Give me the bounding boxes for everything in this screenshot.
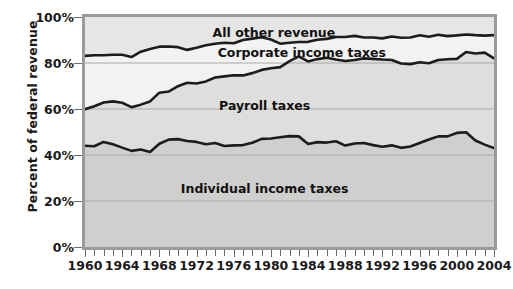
x-axis-minor-tick	[401, 250, 402, 256]
x-axis-major-tick	[234, 250, 235, 257]
y-axis-tick-mark	[74, 201, 82, 202]
x-axis-tick-label: 1992	[365, 258, 400, 273]
x-axis-minor-tick	[187, 250, 188, 256]
x-axis-major-tick	[308, 250, 309, 257]
x-axis-minor-tick	[466, 250, 467, 256]
x-axis-minor-tick	[355, 250, 356, 256]
x-axis-minor-tick	[485, 250, 486, 256]
y-axis-tick-label: 60%	[30, 102, 74, 117]
x-axis-minor-tick	[429, 250, 430, 256]
x-axis-minor-tick	[169, 250, 170, 256]
x-axis-tick-label: 1984	[291, 258, 326, 273]
x-axis-major-tick	[382, 250, 383, 257]
x-axis-major-tick	[85, 250, 86, 257]
x-axis-minor-tick	[206, 250, 207, 256]
x-axis-tick-label: 1980	[254, 258, 289, 273]
chart-container: Percent of federal revenue 0%20%40%60%80…	[0, 0, 513, 289]
x-axis-tick-label: 1960	[68, 258, 103, 273]
y-axis-tick-mark	[74, 155, 82, 156]
x-axis-minor-tick	[262, 250, 263, 256]
x-axis-tick-label: 1972	[179, 258, 214, 273]
x-axis-minor-tick	[299, 250, 300, 256]
x-axis-minor-tick	[243, 250, 244, 256]
x-axis-minor-tick	[290, 250, 291, 256]
x-axis-tick-label: 1996	[402, 258, 437, 273]
y-axis-tick-label: 0%	[30, 240, 74, 255]
x-axis-minor-tick	[131, 250, 132, 256]
y-axis-tick-label: 20%	[30, 194, 74, 209]
y-axis-tick-label: 40%	[30, 148, 74, 163]
plot-area: All other revenueCorporate income taxesP…	[82, 14, 497, 250]
x-axis-minor-tick	[327, 250, 328, 256]
x-axis-minor-tick	[317, 250, 318, 256]
x-axis-minor-tick	[336, 250, 337, 256]
y-axis-tick-label: 80%	[30, 56, 74, 71]
x-axis-minor-tick	[141, 250, 142, 256]
x-axis-minor-tick	[373, 250, 374, 256]
x-axis-ticks	[82, 250, 497, 258]
x-axis-tick-label: 1988	[328, 258, 363, 273]
x-axis-major-tick	[457, 250, 458, 257]
y-axis-tick-mark	[74, 247, 82, 248]
x-axis-minor-tick	[364, 250, 365, 256]
x-axis-tick-label: 1968	[142, 258, 177, 273]
y-axis-tick-mark	[74, 109, 82, 110]
plot-svg-wrapper	[85, 17, 494, 247]
x-axis-minor-tick	[475, 250, 476, 256]
x-axis-tick-label: 1976	[216, 258, 251, 273]
x-axis-minor-tick	[94, 250, 95, 256]
x-axis-minor-tick	[410, 250, 411, 256]
x-axis-minor-tick	[150, 250, 151, 256]
y-axis-tick-labels: 0%20%40%60%80%100%	[22, 0, 74, 289]
x-axis-minor-tick	[448, 250, 449, 256]
x-axis-major-tick	[345, 250, 346, 257]
x-axis-tick-label: 2004	[477, 258, 512, 273]
x-axis-minor-tick	[215, 250, 216, 256]
x-axis-major-tick	[197, 250, 198, 257]
x-axis-minor-tick	[280, 250, 281, 256]
x-axis-major-tick	[122, 250, 123, 257]
x-axis-major-tick	[159, 250, 160, 257]
y-axis-tick-mark	[74, 63, 82, 64]
x-axis-major-tick	[271, 250, 272, 257]
x-axis-minor-tick	[392, 250, 393, 256]
x-axis-minor-tick	[252, 250, 253, 256]
x-axis-minor-tick	[438, 250, 439, 256]
x-axis-tick-label: 1964	[105, 258, 140, 273]
x-axis-minor-tick	[104, 250, 105, 256]
x-axis-minor-tick	[224, 250, 225, 256]
y-axis-tick-mark	[74, 17, 82, 18]
y-axis-tick-label: 100%	[30, 10, 74, 25]
x-axis-minor-tick	[178, 250, 179, 256]
x-axis-major-tick	[420, 250, 421, 257]
x-axis-minor-tick	[113, 250, 114, 256]
x-axis-major-tick	[494, 250, 495, 257]
stacked-area-svg	[85, 17, 494, 247]
x-axis-tick-label: 2000	[439, 258, 474, 273]
